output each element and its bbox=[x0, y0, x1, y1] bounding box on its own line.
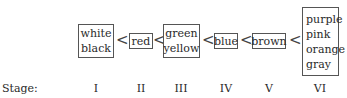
stage-2-box: red bbox=[129, 33, 153, 49]
stage-numeral: I bbox=[81, 82, 111, 95]
less-than-sign: < bbox=[202, 33, 215, 48]
stage-numeral: III bbox=[166, 82, 196, 95]
color-term: white bbox=[81, 26, 112, 41]
less-than-sign: < bbox=[289, 33, 302, 48]
color-term: red bbox=[132, 34, 151, 49]
color-term: gray bbox=[306, 57, 331, 72]
color-term: blue bbox=[214, 34, 238, 49]
less-than-sign: < bbox=[116, 33, 129, 48]
color-term: black bbox=[81, 41, 111, 56]
stage-label: Stage: bbox=[2, 82, 38, 95]
stage-numeral: II bbox=[126, 82, 156, 95]
color-term: orange bbox=[306, 42, 345, 57]
stage-1-box: white black bbox=[78, 24, 114, 58]
stage-numeral: VI bbox=[305, 82, 335, 95]
stage-3-box: green yellow bbox=[163, 24, 200, 58]
color-term: yellow bbox=[164, 41, 200, 56]
stage-6-box: purple pink orange gray bbox=[302, 7, 339, 76]
stage-5-box: brown bbox=[252, 33, 286, 49]
color-term: brown bbox=[251, 34, 286, 49]
color-term: green bbox=[165, 26, 197, 41]
color-term: purple bbox=[306, 12, 342, 27]
color-term: pink bbox=[306, 27, 330, 42]
stage-4-box: blue bbox=[214, 33, 238, 49]
stage-numeral: IV bbox=[211, 82, 241, 95]
stage-numeral: V bbox=[254, 82, 284, 95]
